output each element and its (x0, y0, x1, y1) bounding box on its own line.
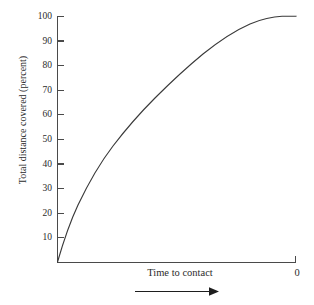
x-axis-title: Time to contact (100, 268, 260, 279)
x-tick-label-0: 0 (288, 268, 306, 279)
y-axis-ticks (58, 17, 65, 238)
figure-container: 100 90 80 70 60 50 40 30 20 10 Total dis… (0, 0, 314, 305)
data-curve (58, 16, 297, 262)
caption-bleed (0, 300, 314, 305)
time-direction-arrow (135, 287, 219, 296)
y-axis-title: Total distance covered (percent) (18, 0, 28, 245)
